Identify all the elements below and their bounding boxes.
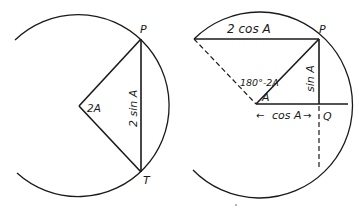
right-label-p: P <box>319 23 326 36</box>
right-label-angle-a: A <box>261 91 270 104</box>
left-label-p: P <box>140 23 147 36</box>
trig-diagram: P T 2A 2 sin A 2 cos A P 180°-2A A sin A… <box>0 0 359 213</box>
left-label-chord: 2 sin A <box>127 90 140 127</box>
right-circle-arc <box>193 12 353 198</box>
right-label-supplement: 180°-2A <box>240 77 279 88</box>
stray-dot <box>235 204 237 206</box>
right-dashed-radius <box>194 39 256 104</box>
left-label-angle: 2A <box>87 102 101 114</box>
left-figure: P T 2A 2 sin A <box>15 15 169 197</box>
right-figure: 2 cos A P 180°-2A A sin A ← cos A → Q <box>193 12 353 198</box>
right-label-2cosA: 2 cos A <box>227 22 271 36</box>
right-label-q: Q <box>323 110 332 123</box>
cos-arrow-left-icon: ← <box>256 110 264 121</box>
cos-arrow-right-icon: → <box>303 110 311 121</box>
right-label-sinA: sin A <box>304 65 317 92</box>
right-cos-dimension: ← cos A → <box>256 109 311 122</box>
left-label-t: T <box>143 174 151 187</box>
right-label-cosA: cos A <box>272 109 302 122</box>
